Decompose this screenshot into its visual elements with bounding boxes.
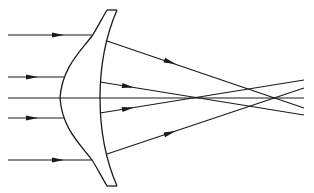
arrow-icon [164, 58, 177, 67]
arrow-icon [26, 116, 38, 121]
lens-ray-diagram [0, 0, 314, 193]
arrow-icon [26, 75, 38, 80]
arrow-icon [122, 105, 135, 112]
arrow-icon [52, 158, 64, 163]
incoming-rays [8, 33, 304, 163]
arrow-icon [122, 83, 135, 90]
arrow-icon [52, 33, 64, 38]
arrow-icon [164, 129, 177, 138]
